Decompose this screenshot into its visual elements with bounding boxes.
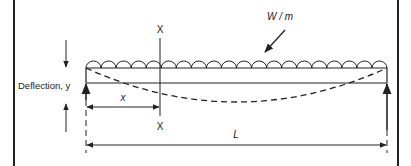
section-label-bottom: X <box>157 121 164 132</box>
distributed-load-arcs <box>86 61 387 68</box>
load-label: W / m <box>267 11 293 22</box>
section-label-top: X <box>157 24 164 35</box>
load-arrow <box>265 30 285 52</box>
x-dimension-label: x <box>120 92 127 103</box>
deflection-curve <box>86 68 387 102</box>
deflection-label: Deflection, y <box>18 80 71 91</box>
beam-deflection-diagram: X X Deflection, y x L W / m <box>0 0 411 166</box>
span-dimension-label: L <box>233 129 239 140</box>
